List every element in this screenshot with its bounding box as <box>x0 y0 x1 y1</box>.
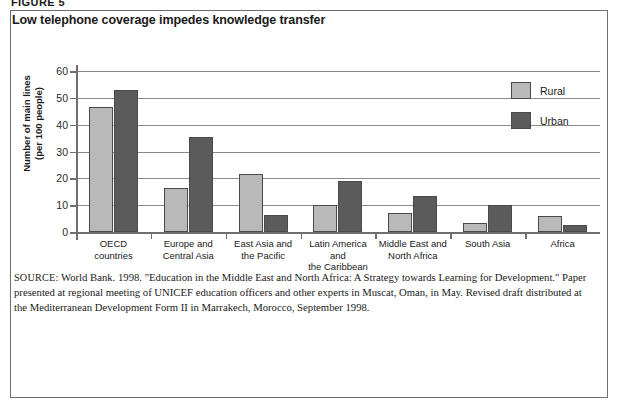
x-label-line: countries <box>76 250 151 262</box>
x-label-line: Africa <box>525 238 600 250</box>
legend-swatch-rural-icon <box>511 82 531 99</box>
bar-group <box>226 71 301 232</box>
y-tick-label-30: 30 <box>46 146 68 158</box>
legend-item-urban: Urban <box>511 112 569 129</box>
x-axis-separator-tick <box>151 232 153 239</box>
bar-urban <box>563 225 587 232</box>
y-tick-mark-50 <box>70 98 77 100</box>
y-axis-title: Number of main lines (per 100 people) <box>21 64 44 184</box>
bar-rural <box>463 223 487 232</box>
x-axis-line <box>70 232 600 234</box>
x-label-line: Middle East and <box>375 238 450 250</box>
bar-group <box>76 71 151 232</box>
y-axis-title-line1: Number of main lines <box>21 64 33 184</box>
x-label-line: Latin America and <box>301 238 376 261</box>
y-tick-label-0: 0 <box>46 226 68 238</box>
x-axis-label: Africa <box>525 238 600 250</box>
source-text: World Bank. 1998. "Education in the Midd… <box>14 271 586 313</box>
bar-group <box>301 71 376 232</box>
y-tick-mark-20 <box>70 178 77 180</box>
bar-urban <box>189 137 213 232</box>
bar-group <box>375 71 450 232</box>
x-axis-category-labels: OECDcountriesEurope andCentral AsiaEast … <box>76 238 600 272</box>
source-tag: SOURCE: <box>14 272 58 283</box>
bar-urban <box>114 90 138 232</box>
y-tick-label-50: 50 <box>46 92 68 104</box>
y-tick-mark-40 <box>70 125 77 127</box>
x-axis-label: Latin America andthe Caribbean <box>301 238 376 273</box>
y-tick-mark-0 <box>70 232 77 234</box>
bar-rural <box>388 213 412 232</box>
y-tick-label-20: 20 <box>46 172 68 184</box>
y-axis-title-line2: (per 100 people) <box>32 64 44 184</box>
bar-rural <box>164 188 188 232</box>
x-label-line: OECD <box>76 238 151 250</box>
x-label-line: North Africa <box>375 250 450 262</box>
y-tick-label-10: 10 <box>46 199 68 211</box>
x-axis-separator-tick <box>301 232 303 239</box>
x-label-line: Europe and <box>151 238 226 250</box>
legend-label-rural: Rural <box>540 85 565 97</box>
legend-item-rural: Rural <box>511 82 569 99</box>
x-label-line: the Pacific <box>226 250 301 262</box>
x-axis-separator-tick <box>525 232 527 239</box>
x-axis-label: OECDcountries <box>76 238 151 261</box>
x-label-line: Central Asia <box>151 250 226 262</box>
bar-urban <box>413 196 437 232</box>
x-axis-label: South Asia <box>450 238 525 250</box>
source-note: SOURCE: World Bank. 1998. "Education in … <box>14 270 592 314</box>
x-axis-label: Middle East andNorth Africa <box>375 238 450 261</box>
legend-swatch-urban-icon <box>511 112 531 129</box>
bar-urban <box>488 205 512 232</box>
y-tick-label-40: 40 <box>46 119 68 131</box>
legend-label-urban: Urban <box>540 115 569 127</box>
x-label-line: East Asia and <box>226 238 301 250</box>
x-axis-separator-tick <box>450 232 452 239</box>
y-tick-label-60: 60 <box>46 65 68 77</box>
y-tick-mark-60 <box>70 71 77 73</box>
bar-urban <box>338 181 362 232</box>
x-axis-separator-tick <box>375 232 377 239</box>
bar-rural <box>89 107 113 232</box>
bar-group <box>151 71 226 232</box>
bar-urban <box>264 215 288 232</box>
x-axis-label: East Asia andthe Pacific <box>226 238 301 261</box>
x-axis-separator-tick <box>226 232 228 239</box>
bar-rural <box>313 205 337 232</box>
y-tick-mark-10 <box>70 205 77 207</box>
bar-rural <box>239 174 263 232</box>
bar-rural <box>538 216 562 232</box>
y-tick-mark-30 <box>70 152 77 154</box>
chart-legend: Rural Urban <box>511 82 569 142</box>
y-axis-tick-labels: 6050403020100 <box>46 0 68 405</box>
x-axis-label: Europe andCentral Asia <box>151 238 226 261</box>
x-label-line: South Asia <box>450 238 525 250</box>
